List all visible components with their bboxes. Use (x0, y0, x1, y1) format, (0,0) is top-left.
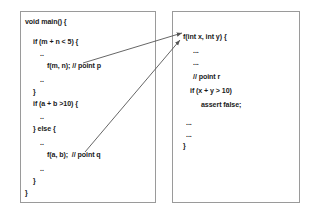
code-line: assert false; (201, 101, 241, 109)
code-line: .. (40, 50, 44, 58)
code-line: f(a, b); // point q (47, 151, 101, 159)
diagram-canvas: void main() {if (m + n < 5) {..f(m, n); … (0, 0, 318, 214)
code-line: ... (193, 59, 199, 67)
code-line: f(int x, int y) { (183, 33, 227, 41)
code-line: if (a + b >10) { (33, 100, 78, 108)
code-line: } (33, 88, 36, 96)
code-line: // point r (193, 73, 220, 81)
code-line: } (25, 189, 28, 197)
code-line: ... (193, 47, 199, 55)
code-line: .. (40, 76, 44, 84)
code-line: .. (40, 113, 44, 121)
code-line: .. (40, 139, 44, 147)
code-line: } else { (33, 125, 56, 133)
code-line: ... (186, 119, 192, 127)
code-line: } (183, 142, 186, 150)
code-line: f(m, n); // point p (47, 62, 101, 70)
code-line: } (33, 177, 36, 185)
code-line: ... (186, 131, 192, 139)
code-line: if (m + n < 5) { (33, 38, 78, 46)
code-line: if (x + y > 10) (190, 87, 232, 95)
code-line: void main() { (25, 18, 67, 26)
code-line: .. (40, 165, 44, 173)
